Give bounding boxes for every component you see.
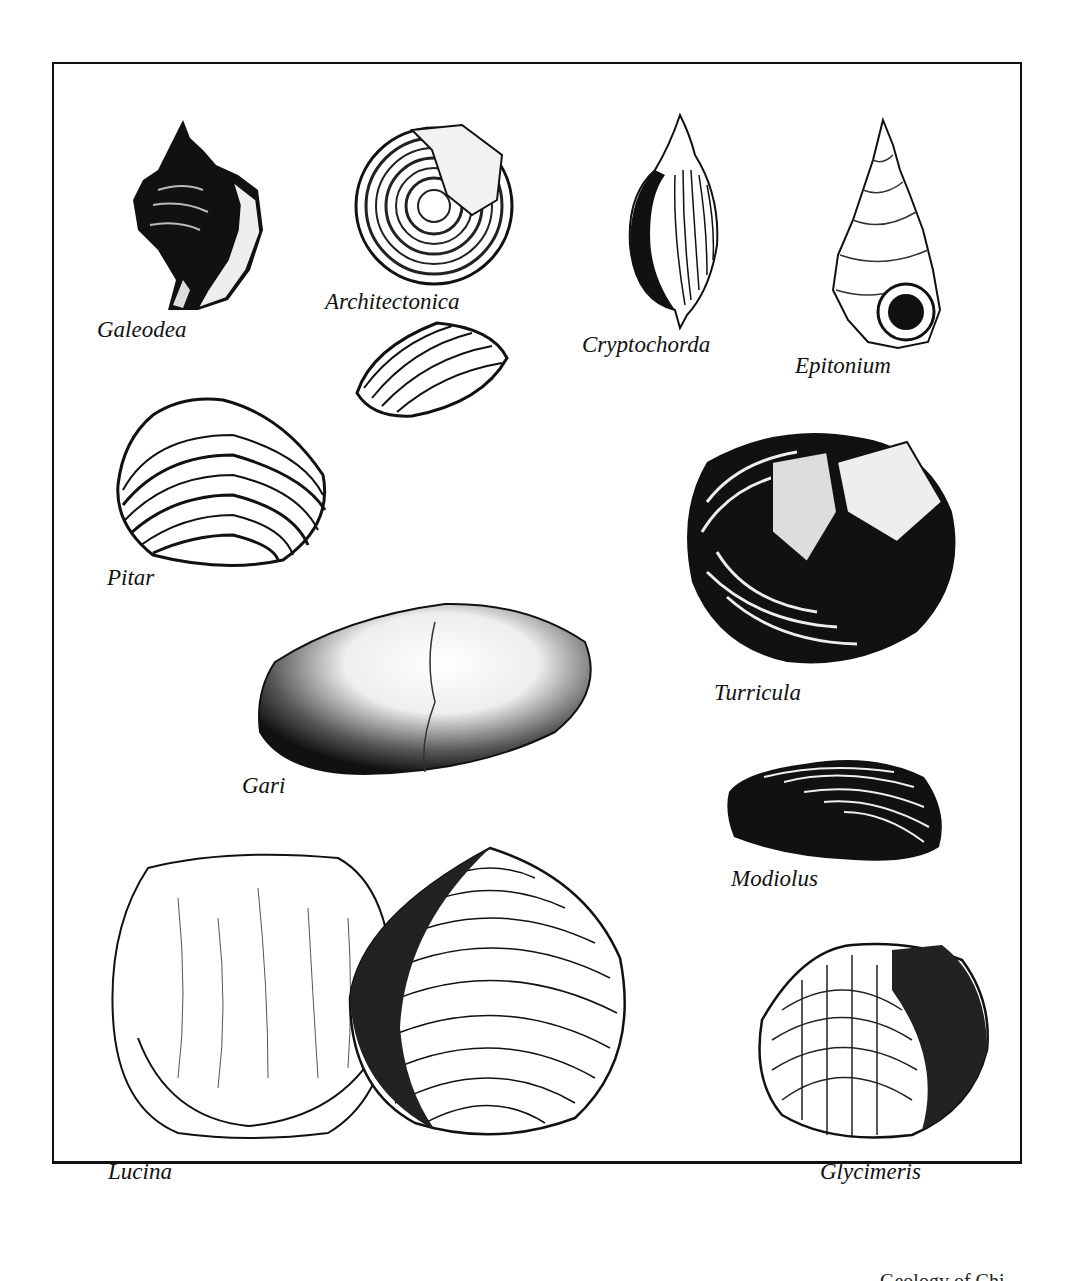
label-cryptochorda: Cryptochorda [582, 333, 710, 356]
label-lucina: Lucina [108, 1160, 172, 1183]
epitonium-illustration [828, 120, 943, 348]
unlabeled-bivalve-illustration [352, 318, 512, 418]
gari-illustration [255, 602, 600, 777]
turricula-illustration [677, 422, 967, 667]
architectonica-illustration [352, 120, 517, 285]
label-pitar: Pitar [107, 566, 154, 589]
label-galeodea: Galeodea [97, 318, 186, 341]
cryptochorda-illustration [625, 115, 725, 330]
label-modiolus: Modiolus [731, 867, 818, 890]
label-gari: Gari [242, 774, 285, 797]
label-glycimeris: Glycimeris [820, 1160, 921, 1183]
glycimeris-illustration [742, 940, 992, 1142]
label-turricula: Turricula [714, 681, 801, 704]
galeodea-illustration [128, 120, 268, 315]
label-architectonica: Architectonica [325, 290, 460, 313]
cropped-footer-text: Geology of Chi [880, 1268, 1004, 1281]
pitar-illustration [113, 395, 333, 570]
label-epitonium: Epitonium [795, 354, 891, 377]
lucina-exterior-illustration [345, 848, 635, 1143]
modiolus-illustration [724, 752, 946, 864]
